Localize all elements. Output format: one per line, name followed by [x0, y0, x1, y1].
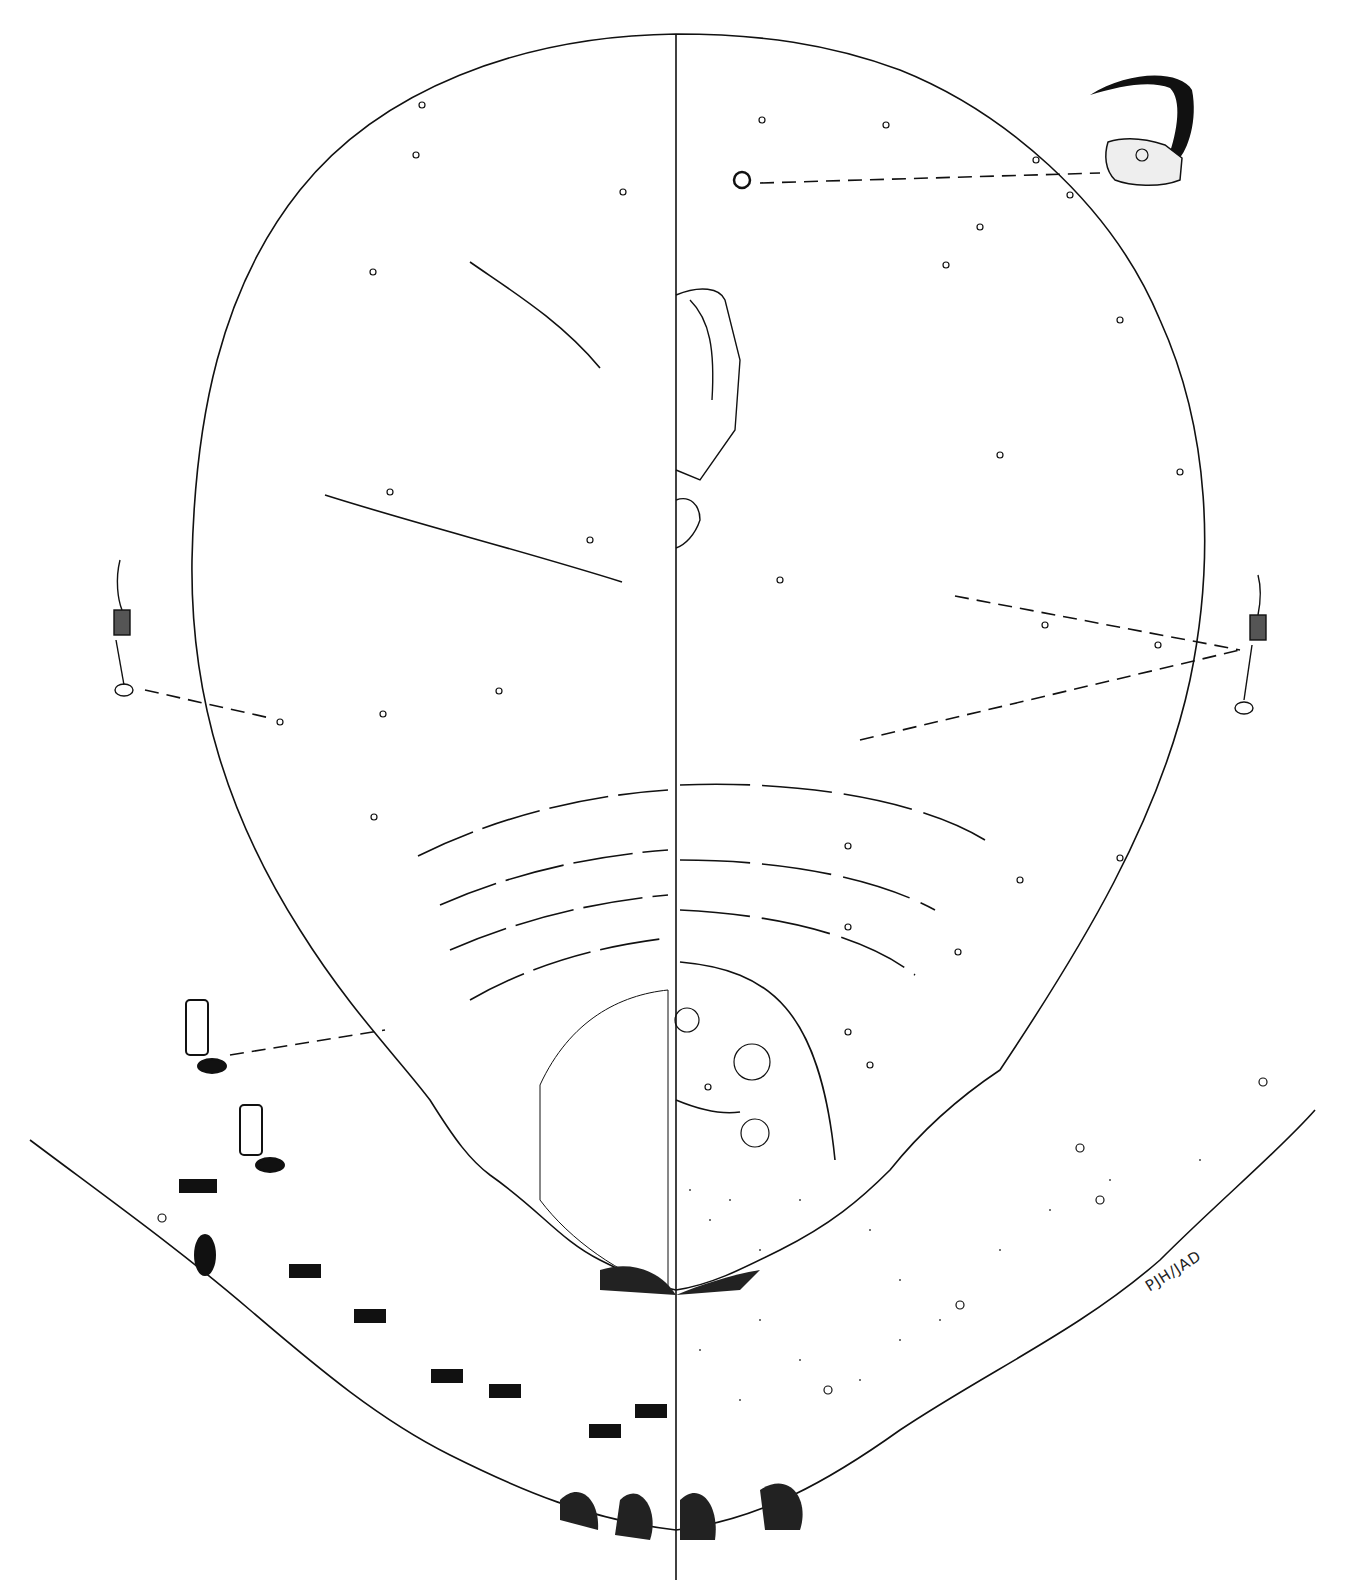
leader-line: [955, 596, 1240, 650]
segment-arc: [450, 895, 668, 950]
segment-arc: [680, 962, 835, 1160]
segment-arc: [680, 784, 985, 840]
fold-line: [325, 495, 622, 582]
segment-arc: [680, 860, 935, 910]
marginal-lobes: [560, 1266, 803, 1540]
segment-arc: [470, 938, 668, 1000]
segment-arc: [680, 910, 915, 975]
claw-detail: [734, 76, 1194, 188]
tubular-ducts: [180, 1000, 666, 1437]
leg-fragment: [676, 289, 740, 548]
spiracle-detail-left: [114, 560, 133, 696]
morphology-illustration: [0, 0, 1368, 1584]
setae-and-pores: [158, 102, 1267, 1394]
segment-arc: [440, 850, 668, 905]
pore-clusters: [675, 1008, 770, 1147]
body-outline: [192, 34, 1205, 1290]
leader-line: [860, 650, 1240, 740]
leader-line: [230, 1030, 385, 1055]
segment-arc: [418, 790, 668, 856]
anal-region: [540, 990, 668, 1290]
margin-left: [30, 1140, 676, 1530]
fold-line: [470, 262, 600, 368]
leader-line: [760, 173, 1100, 183]
anal-ring: [676, 1100, 740, 1113]
stipple: [689, 1159, 1201, 1401]
spiracle-detail-right: [1235, 575, 1266, 714]
margin-right: [676, 1110, 1315, 1530]
